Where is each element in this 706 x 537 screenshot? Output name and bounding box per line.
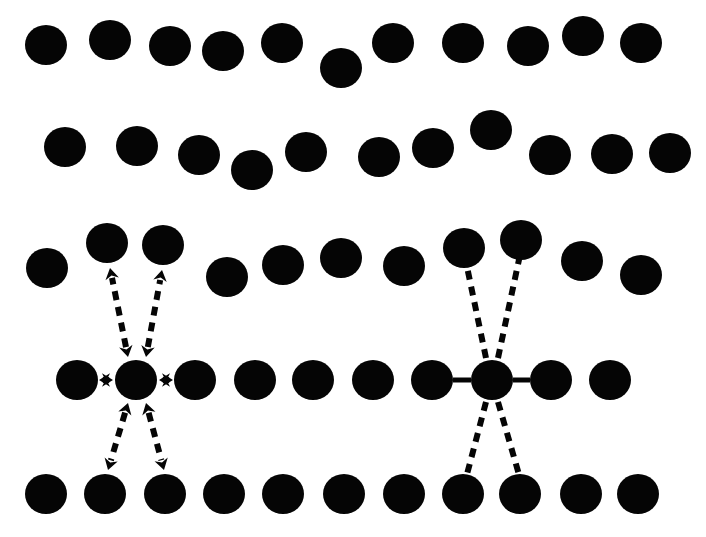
particle-dot [529, 135, 571, 175]
particle-dot [292, 360, 334, 400]
particle-dot [262, 245, 304, 285]
particle-dot [358, 137, 400, 177]
particle-dot [617, 474, 659, 514]
particle-dot [262, 474, 304, 514]
particle-dot [507, 26, 549, 66]
particle-dot [202, 31, 244, 71]
particle-dot [352, 360, 394, 400]
particle-dot [499, 474, 541, 514]
particle-dot [115, 360, 157, 400]
particle-dot [560, 474, 602, 514]
particle-dot [89, 20, 131, 60]
particle-dot [323, 474, 365, 514]
particle-dot [620, 23, 662, 63]
particle-dot [443, 228, 485, 268]
particle-dot [589, 360, 631, 400]
particle-dot [530, 360, 572, 400]
particle-dot [56, 360, 98, 400]
particle-dot [86, 223, 128, 263]
particle-dot [320, 238, 362, 278]
particle-dot [442, 23, 484, 63]
particle-dot [26, 248, 68, 288]
particle-dot [84, 474, 126, 514]
lattice-diagram-figure [0, 0, 706, 537]
particle-dot [591, 134, 633, 174]
particle-dot [206, 257, 248, 297]
particle-dot [44, 127, 86, 167]
particle-dot [116, 126, 158, 166]
particle-dot [383, 246, 425, 286]
particle-dot [203, 474, 245, 514]
particle-dot [261, 23, 303, 63]
lattice-canvas [0, 0, 706, 537]
particle-dot [178, 135, 220, 175]
particle-dot [383, 474, 425, 514]
particle-dot [412, 128, 454, 168]
particle-dot [25, 25, 67, 65]
particle-dot [231, 150, 273, 190]
particle-dot [25, 474, 67, 514]
particle-dot [144, 474, 186, 514]
particle-dot [234, 360, 276, 400]
particle-dot [372, 23, 414, 63]
particle-dot [649, 133, 691, 173]
particle-dot [320, 48, 362, 88]
particle-dot [285, 132, 327, 172]
particle-dot [411, 360, 453, 400]
particle-dot [561, 241, 603, 281]
particle-dot [620, 255, 662, 295]
particle-dot [471, 360, 513, 400]
particle-dot [442, 474, 484, 514]
particle-dot [149, 26, 191, 66]
particle-dot [142, 225, 184, 265]
particle-dot [470, 110, 512, 150]
particle-dot [562, 16, 604, 56]
particle-dot [174, 360, 216, 400]
particle-dot [500, 220, 542, 260]
